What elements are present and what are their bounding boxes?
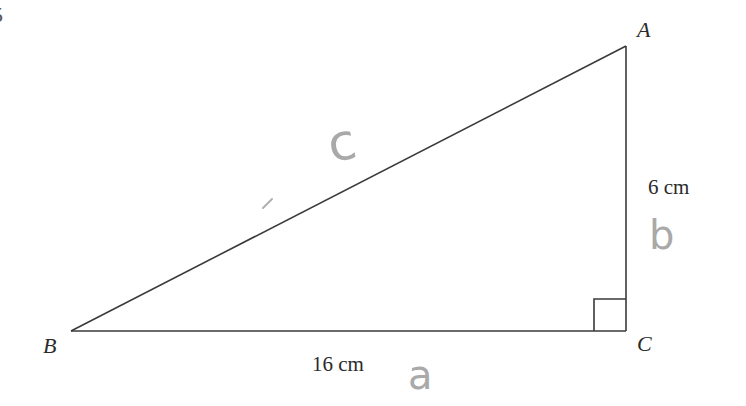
vertex-label-c: C	[637, 333, 652, 355]
right-triangle-diagram	[0, 0, 746, 406]
vertex-label-a: A	[637, 19, 650, 41]
handwritten-a: a	[408, 355, 433, 395]
vertex-label-b: B	[43, 335, 56, 357]
handwritten-b: b	[649, 215, 674, 255]
pencil-stroke-mark	[263, 199, 272, 208]
right-angle-marker	[594, 299, 626, 331]
side-label-ac: 6 cm	[648, 177, 689, 198]
side-label-bc: 16 cm	[312, 354, 364, 375]
side-ab-hypotenuse	[71, 46, 626, 331]
